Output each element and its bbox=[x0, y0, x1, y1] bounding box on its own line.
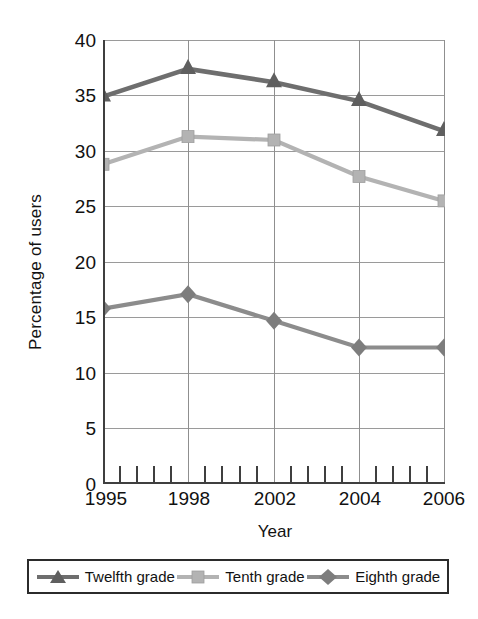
y-tick-label: 15 bbox=[50, 308, 96, 327]
y-tick-label: 30 bbox=[50, 142, 96, 161]
chart-legend: Twelfth grade Tenth grade Eighth grade bbox=[27, 559, 449, 594]
y-tick-label: 10 bbox=[50, 364, 96, 383]
y-tick-label: 35 bbox=[50, 86, 96, 105]
x-tick-label: 1995 bbox=[66, 489, 146, 508]
y-axis-tick-labels: 40 35 30 25 20 15 10 5 0 bbox=[46, 0, 96, 619]
square-marker-icon bbox=[176, 568, 220, 586]
y-tick-label: 20 bbox=[50, 253, 96, 272]
plot-area bbox=[103, 40, 445, 484]
x-tick-label: 1998 bbox=[149, 489, 229, 508]
y-tick-label: 25 bbox=[50, 197, 96, 216]
y-tick-label: 5 bbox=[50, 419, 96, 438]
x-minor-ticks bbox=[120, 466, 427, 483]
triangle-marker-icon bbox=[36, 568, 80, 586]
legend-entry-tenth-grade: Tenth grade bbox=[176, 568, 304, 586]
x-tick-label: 2006 bbox=[404, 489, 478, 508]
diamond-marker-icon bbox=[306, 568, 350, 586]
y-axis-title: Percentage of users bbox=[26, 152, 46, 392]
legend-entry-eighth-grade: Eighth grade bbox=[306, 568, 440, 586]
legend-entry-twelfth-grade: Twelfth grade bbox=[36, 568, 175, 586]
legend-label: Twelfth grade bbox=[85, 568, 175, 585]
x-tick-label: 2004 bbox=[320, 489, 400, 508]
x-tick-label: 2002 bbox=[235, 489, 315, 508]
y-tick-label: 40 bbox=[50, 31, 96, 50]
chart-figure: Percentage of users 40 35 30 25 20 15 10… bbox=[0, 0, 478, 619]
legend-label: Tenth grade bbox=[225, 568, 304, 585]
x-axis-title: Year bbox=[100, 522, 450, 542]
legend-label: Eighth grade bbox=[355, 568, 440, 585]
x-axis-tick-labels: 1995 1998 2002 2004 2006 bbox=[0, 489, 478, 519]
